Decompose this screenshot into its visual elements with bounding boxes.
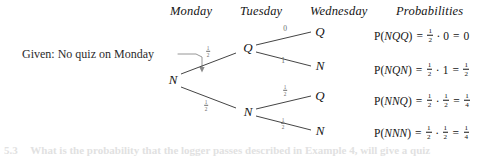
node-root-n: N [169, 72, 178, 88]
prob-nqn-arg: NQN [384, 64, 408, 76]
edge-label-q-q-value: 0 [283, 24, 287, 33]
prob-nnq-f1-den: 2 [427, 102, 433, 109]
node-wednesday-qn-label: N [316, 58, 325, 73]
edge-label-tuesday-n-to-wednesday-n: 1 2 [280, 118, 286, 130]
column-header-tuesday-label: Tuesday [240, 4, 282, 18]
edge-label-root-n-numerator: 1 [204, 99, 209, 104]
node-root-n-label: N [169, 72, 178, 87]
node-wednesday-qq: Q [315, 24, 324, 40]
given-condition-text: Given: No quiz on Monday [22, 47, 154, 61]
node-wednesday-nn-label: N [316, 123, 325, 138]
prob-nnq-result-den: 4 [464, 102, 470, 109]
prob-nnn-f2-num: 1 [443, 124, 449, 131]
prob-nqn-f1-den: 2 [427, 71, 433, 78]
node-wednesday-nq-label: Q [315, 88, 324, 103]
prob-nqq-f1-den: 2 [427, 37, 433, 44]
edge-label-root-q-denominator: 2 [206, 52, 211, 57]
edge-label-n-n-numerator: 1 [281, 117, 286, 122]
edge-label-n-q-numerator: 1 [283, 84, 288, 89]
prob-nqq-equals-2: = [449, 30, 464, 42]
given-condition-label: Given: No quiz on Monday [22, 47, 154, 62]
probability-row-nqn: P ( NQN ) = 1 2 · 1 = 1 2 [374, 62, 469, 79]
prob-nqn-result-den: 2 [463, 71, 469, 78]
prob-nqq-f1-num: 1 [427, 27, 433, 34]
edge-label-n-q-denominator: 2 [283, 91, 288, 96]
prob-nqn-multiply: · [433, 64, 443, 76]
edge-tuesday-n-to-wednesday-q [256, 96, 311, 109]
caption-number: 5.3 [4, 146, 18, 156]
node-tuesday-n: N [244, 104, 253, 120]
prob-nnn-equals-2: = [449, 127, 464, 139]
edge-label-root-to-tuesday-n: 1 2 [203, 100, 209, 112]
prob-nnq-equals-2: = [449, 95, 464, 107]
column-header-tuesday: Tuesday [240, 4, 282, 19]
column-header-monday-label: Monday [170, 4, 212, 18]
prob-nnq-result-num: 1 [464, 92, 470, 99]
probability-row-nnq: P ( NNQ ) = 1 2 · 1 2 = 1 4 [374, 93, 470, 110]
prob-nqq-equals-1: = [412, 30, 427, 42]
figure-canvas: Monday Tuesday Wednesday Probabilities G… [0, 0, 503, 158]
column-header-monday: Monday [170, 4, 212, 19]
prob-nqq-multiply: · [433, 30, 443, 42]
column-header-probabilities: Probabilities [396, 4, 463, 19]
edge-label-root-n-denominator: 2 [204, 106, 209, 111]
prob-nnn-f2-den: 2 [443, 134, 449, 141]
node-wednesday-qn: N [316, 58, 325, 74]
edge-label-root-to-tuesday-q: 1 2 [205, 46, 211, 58]
node-tuesday-q: Q [243, 40, 252, 56]
prob-nnq-multiply: · [433, 95, 443, 107]
node-tuesday-q-label: Q [243, 40, 252, 55]
edge-label-tuesday-q-to-wednesday-n: 1 [281, 57, 285, 65]
probability-row-nnn: P ( NNN ) = 1 2 · 1 2 = 1 4 [374, 125, 470, 142]
prob-nqn-result-num: 1 [463, 61, 469, 68]
prob-nnq-f1-num: 1 [427, 92, 433, 99]
column-header-wednesday: Wednesday [310, 4, 368, 19]
edge-label-tuesday-n-to-wednesday-q: 1 2 [282, 85, 288, 97]
node-wednesday-nn: N [316, 123, 325, 139]
prob-nnq-f2-num: 1 [443, 92, 449, 99]
edge-label-n-n-denominator: 2 [281, 124, 286, 129]
prob-nnn-result-den: 4 [464, 134, 470, 141]
probability-row-nqq: P ( NQQ ) = 1 2 · 0 = 0 [374, 28, 469, 45]
prob-nnq-f2-den: 2 [443, 102, 449, 109]
prob-nnn-f1-den: 2 [426, 134, 432, 141]
column-header-probabilities-label: Probabilities [396, 4, 463, 18]
given-pointer-arrow [178, 54, 205, 73]
node-tuesday-n-label: N [244, 104, 253, 119]
prob-nqq-result: 0 [464, 30, 470, 42]
column-header-wednesday-label: Wednesday [310, 4, 368, 18]
prob-nqn-f1-num: 1 [427, 61, 433, 68]
prob-nnn-f1-num: 1 [426, 124, 432, 131]
prob-nnn-equals-1: = [411, 127, 426, 139]
prob-nnn-multiply: · [432, 127, 442, 139]
prob-nnq-arg: NNQ [384, 95, 408, 107]
caption-fragment-strip: 5.3 What is the probability that the log… [0, 146, 503, 158]
prob-nqq-arg: NQQ [384, 30, 408, 42]
prob-nnn-arg: NNN [384, 127, 407, 139]
edge-label-q-n-value: 1 [281, 56, 285, 65]
prob-nnn-result-num: 1 [464, 124, 470, 131]
prob-nqn-equals-2: = [448, 64, 463, 76]
node-wednesday-nq: Q [315, 88, 324, 104]
prob-nqn-equals-1: = [412, 64, 427, 76]
prob-nnq-equals-1: = [412, 95, 427, 107]
edge-tuesday-q-to-wednesday-q [256, 32, 311, 45]
node-wednesday-qq-label: Q [315, 24, 324, 39]
caption-text: What is the probability that the logger … [30, 146, 430, 156]
edge-label-root-q-numerator: 1 [206, 45, 211, 50]
edge-label-tuesday-q-to-wednesday-q: 0 [283, 25, 287, 33]
